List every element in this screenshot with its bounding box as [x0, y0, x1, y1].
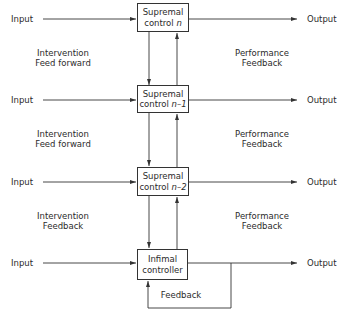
feedback-loop-label: Feedback	[161, 290, 201, 300]
block-title: Infimal	[148, 254, 177, 265]
block-supremal-control-n-2: Supremal control n–2	[137, 167, 189, 196]
block-subtitle: control	[139, 182, 171, 192]
intervention-label-1: Intervention Feed forward	[35, 48, 91, 68]
output-label-1: Output	[307, 14, 337, 24]
block-supremal-control-n-1: Supremal control n–1	[137, 85, 189, 113]
performance-label-2: Performance Feedback	[235, 129, 289, 149]
performance-label-3: Performance Feedback	[235, 211, 289, 231]
block-subtitle: control	[139, 99, 171, 109]
block-index: n–2	[172, 182, 187, 192]
block-title: Supremal	[143, 89, 184, 100]
block-subtitle: controller	[142, 265, 183, 275]
block-index: n–1	[172, 99, 187, 109]
input-label-1: Input	[11, 14, 33, 24]
block-index: n	[176, 18, 181, 28]
output-label-2: Output	[307, 95, 337, 105]
intervention-label-3: Intervention Feedback	[37, 211, 89, 231]
block-subtitle: control	[144, 18, 176, 28]
block-infimal-controller: Infimal controller	[137, 249, 188, 280]
output-label-3: Output	[307, 177, 337, 187]
input-label-2: Input	[11, 95, 33, 105]
block-title: Supremal	[143, 7, 184, 18]
performance-label-1: Performance Feedback	[235, 48, 289, 68]
input-label-3: Input	[11, 177, 33, 187]
block-supremal-control-n: Supremal control n	[137, 3, 189, 32]
output-label-4: Output	[307, 258, 337, 268]
input-label-4: Input	[11, 258, 33, 268]
intervention-label-2: Intervention Feed forward	[35, 129, 91, 149]
block-title: Supremal	[143, 171, 184, 182]
